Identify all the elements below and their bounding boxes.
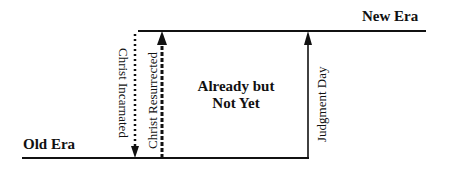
christ-incarnated-label: Christ Incarnated — [115, 48, 131, 138]
arrowhead-up-icon — [157, 31, 167, 45]
old-era-label: Old Era — [23, 136, 75, 153]
arrowhead-up-icon — [304, 31, 312, 45]
already-not-yet-line2: Not Yet — [196, 95, 276, 112]
arrowhead-down-icon — [131, 146, 139, 158]
already-not-yet-line1: Already but — [196, 78, 276, 95]
already-not-yet-label: Already but Not Yet — [196, 78, 276, 112]
christ-resurrected-label: Christ Resurrected — [145, 52, 161, 149]
judgment-day-label: Judgment Day — [314, 67, 330, 142]
new-era-label: New Era — [362, 8, 418, 25]
